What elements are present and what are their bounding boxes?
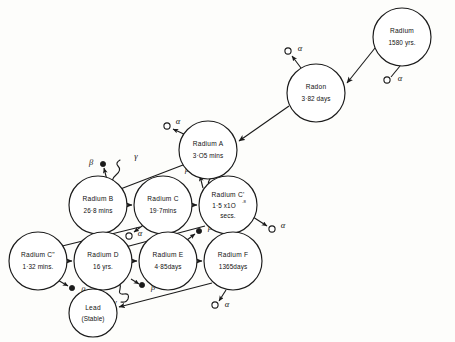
node-state-lead: (Stable): [81, 315, 104, 323]
node-label-lead: Lead: [85, 304, 101, 311]
node-radium-c-prime[interactable]: Radium C' 1·5 x1O -8 secs.: [199, 176, 257, 234]
arrow-radon-to-radium-a: [239, 106, 289, 141]
node-circle-radium-a: [179, 121, 237, 179]
node-label-radium-b: Radium B: [83, 195, 114, 202]
emit-line-radon-alpha: [292, 56, 301, 68]
node-radium-a[interactable]: Radium A 3·O5 mins: [179, 121, 237, 179]
node-halflife-radium-b: 26·8 mins: [84, 207, 113, 214]
node-label-radium-c: Radium C: [147, 195, 178, 202]
node-halflife-radium-c: 19·7mins: [149, 207, 176, 214]
beta-particle-radium-cpp: [69, 285, 74, 290]
node-circle-radium-b: [69, 176, 127, 234]
label-alpha-radium-a: α: [176, 116, 181, 126]
node-lead[interactable]: Lead (Stable): [69, 289, 117, 337]
node-circle-radon: [287, 64, 345, 122]
node-label-radium-c-prime: Radium C': [212, 191, 245, 198]
node-circle-lead: [69, 289, 117, 337]
node-halflife-exponent-radium-c-prime: -8: [242, 199, 246, 204]
diagram-canvas: α α α β γ β γ α α β γ β β α Radium 1580 …: [0, 0, 455, 342]
emit-line-radium-e-beta: [131, 279, 139, 284]
beta-particle-radium-e-lower: [139, 282, 144, 287]
node-radium[interactable]: Radium 1580 yrs.: [373, 8, 431, 66]
beta-particle-radium-e-upper: [196, 228, 201, 233]
node-radium-e[interactable]: Radium E 4·85days: [139, 232, 197, 290]
alpha-particle-radium-cp: [269, 226, 275, 232]
label-alpha-radium-c: α: [138, 228, 143, 238]
label-gamma-radium-b: γ: [134, 151, 138, 161]
node-circle-radium-f: [204, 232, 262, 290]
alpha-particle-radium-f: [212, 302, 218, 308]
node-label-radium-f: Radium F: [218, 251, 249, 258]
beta-particle-radium-b: [100, 161, 105, 166]
node-radon[interactable]: Radon 3·82 days: [287, 64, 345, 122]
node-radium-c-double-prime[interactable]: Radium C" 1·32 mins.: [9, 232, 67, 290]
node-circle-radium-d: [74, 232, 132, 290]
node-halflife-radium-d: 16 yrs.: [93, 263, 113, 271]
node-radium-f[interactable]: Radium F 1365days: [204, 232, 262, 290]
label-alpha-radon: α: [298, 43, 303, 53]
node-label-radium-e: Radium E: [153, 251, 184, 258]
label-alpha-radium-cp: α: [281, 220, 286, 230]
alpha-particle-radium: [384, 77, 390, 83]
node-halflife-radium-f: 1365days: [219, 263, 248, 271]
node-circle-radium-c-double-prime: [9, 232, 67, 290]
node-radium-c[interactable]: Radium C 19·7mins: [134, 176, 192, 234]
node-label-radium-a: Radium A: [193, 140, 224, 147]
label-alpha-radium: α: [398, 73, 403, 83]
node-label-radium: Radium: [390, 27, 414, 34]
node-label-radium-c-double-prime: Radium C": [21, 251, 55, 258]
node-label-radium-d: Radium D: [87, 251, 118, 258]
label-alpha-radium-f: α: [225, 299, 230, 309]
node-halflife-unit-radium-c-prime: secs.: [220, 212, 236, 219]
arrow-radium-to-radon: [347, 48, 375, 83]
alpha-particle-radium-a: [164, 123, 170, 129]
node-radium-b[interactable]: Radium B 26·8 mins: [69, 176, 127, 234]
alpha-particle-radium-c: [126, 233, 132, 239]
emit-line-radium-cp-alpha: [253, 217, 267, 226]
alpha-particle-radon: [285, 48, 291, 54]
node-halflife-radon: 3·82 days: [302, 95, 331, 103]
node-circle-radium-c: [134, 176, 192, 234]
node-radium-d[interactable]: Radium D 16 yrs.: [74, 232, 132, 290]
node-halflife-radium-c-double-prime: 1·32 mins.: [23, 263, 54, 270]
label-beta-radium-b: β: [88, 157, 94, 167]
node-circle-radium: [373, 8, 431, 66]
node-halflife-radium-a: 3·O5 mins: [193, 152, 223, 159]
node-label-radon: Radon: [306, 83, 327, 90]
node-halflife-radium-e: 4·85days: [154, 263, 181, 271]
decay-chain-diagram: α α α β γ β γ α α β γ β β α Radium 1580 …: [0, 0, 455, 342]
node-halflife-radium: 1580 yrs.: [388, 39, 415, 47]
node-circle-radium-e: [139, 232, 197, 290]
node-halflife-radium-c-prime: 1·5 x1O: [212, 202, 235, 209]
